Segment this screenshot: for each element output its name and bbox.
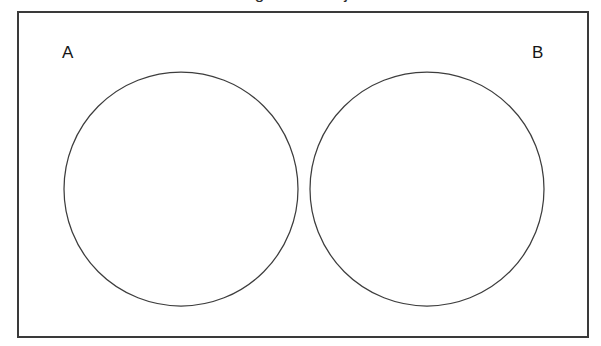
set-b-label: B (532, 43, 543, 62)
venn-diagram-canvas: A B (0, 0, 601, 346)
universal-set-rectangle (18, 12, 588, 337)
venn-diagram-figure: Venn diagram of disjoint sets A B (0, 0, 601, 346)
set-a-label: A (62, 43, 74, 62)
